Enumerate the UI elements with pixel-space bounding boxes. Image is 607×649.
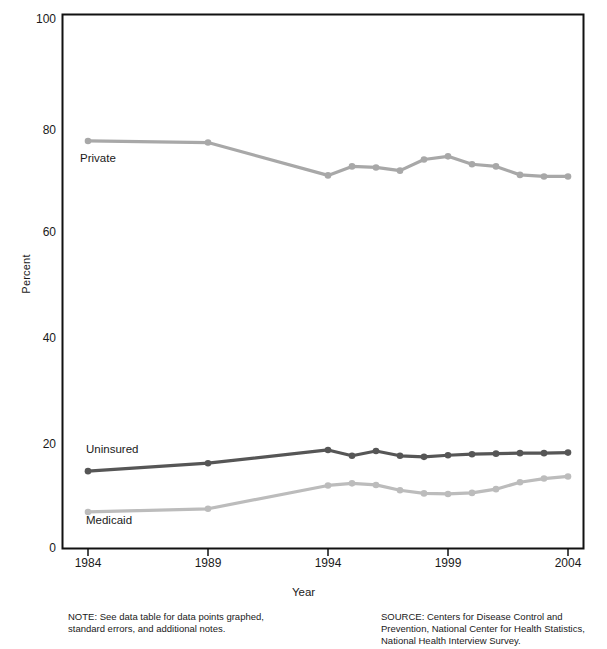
data-point-uninsured-1989: [205, 460, 212, 467]
data-point-medicaid-1994: [325, 482, 332, 489]
data-point-medicaid-2000: [469, 490, 476, 497]
x-tick-label-1999: 1999: [413, 556, 483, 570]
source-block: SOURCE: Centers for Disease Control and …: [381, 611, 607, 647]
data-point-medicaid-1999: [445, 491, 452, 498]
data-point-uninsured-2000: [469, 451, 476, 458]
data-point-private-2003: [541, 173, 548, 180]
source-line-1: SOURCE: Centers for Disease Control and: [381, 611, 607, 623]
data-point-uninsured-1994: [325, 447, 332, 454]
data-point-private-1995: [349, 163, 356, 170]
x-tick-label-1984: 1984: [53, 556, 123, 570]
data-point-uninsured-1995: [349, 452, 356, 459]
data-point-private-2002: [517, 172, 524, 179]
data-point-private-1994: [325, 172, 332, 179]
data-point-uninsured-1996: [373, 448, 380, 455]
data-point-uninsured-1984: [85, 468, 92, 475]
data-point-private-1999: [445, 153, 452, 160]
data-point-uninsured-2001: [493, 450, 500, 457]
note-line-2: standard errors, and additional notes.: [68, 623, 368, 635]
x-tick-label-1994: 1994: [293, 556, 363, 570]
data-point-medicaid-1996: [373, 482, 380, 489]
note-block: NOTE: See data table for data points gra…: [68, 611, 368, 635]
x-tick-label-1989: 1989: [173, 556, 243, 570]
data-point-uninsured-2002: [517, 450, 524, 457]
data-point-private-1997: [397, 167, 404, 174]
data-point-uninsured-2004: [565, 449, 572, 456]
data-point-private-2001: [493, 163, 500, 170]
series-label-private: Private: [80, 152, 116, 164]
x-axis-title: Year: [0, 586, 607, 598]
data-point-medicaid-1997: [397, 487, 404, 494]
data-point-private-1989: [205, 139, 212, 146]
data-point-private-1998: [421, 156, 428, 163]
source-line-2: Prevention, National Center for Health S…: [381, 623, 607, 635]
data-point-medicaid-2004: [565, 473, 572, 480]
series-label-medicaid: Medicaid: [86, 514, 132, 526]
data-point-medicaid-2003: [541, 475, 548, 482]
source-line-3: National Health Interview Survey.: [381, 635, 607, 647]
data-point-medicaid-1989: [205, 505, 212, 512]
data-point-uninsured-2003: [541, 450, 548, 457]
data-point-uninsured-1999: [445, 452, 452, 459]
data-point-medicaid-2001: [493, 486, 500, 493]
data-point-medicaid-1998: [421, 490, 428, 497]
data-point-uninsured-1998: [421, 454, 428, 461]
data-point-private-1984: [85, 138, 92, 145]
data-point-private-1996: [373, 164, 380, 171]
chart-figure: Percent 0 20 40 60 80 100 Private Uninsu…: [0, 0, 607, 649]
x-tick-label-2004: 2004: [533, 556, 603, 570]
note-line-1: NOTE: See data table for data points gra…: [68, 611, 368, 623]
data-point-private-2004: [565, 173, 572, 180]
data-point-medicaid-2002: [517, 479, 524, 486]
series-label-uninsured: Uninsured: [86, 443, 138, 455]
data-point-private-2000: [469, 161, 476, 168]
plot-area: [0, 0, 607, 649]
data-point-medicaid-1995: [349, 480, 356, 487]
data-point-uninsured-1997: [397, 452, 404, 459]
